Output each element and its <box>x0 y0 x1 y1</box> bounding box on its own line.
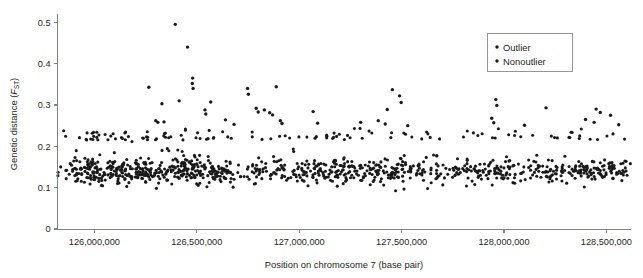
data-point <box>163 176 166 179</box>
data-point <box>535 154 538 157</box>
data-point <box>109 167 112 170</box>
data-point <box>147 85 150 88</box>
data-point <box>199 137 202 140</box>
data-point <box>397 176 400 179</box>
data-point <box>404 133 407 136</box>
data-point <box>191 87 194 90</box>
data-point <box>599 111 602 114</box>
data-point <box>314 137 317 140</box>
data-point <box>623 159 626 162</box>
data-point <box>323 177 326 180</box>
data-point <box>229 181 232 184</box>
data-point <box>253 182 256 185</box>
data-point <box>156 121 159 124</box>
data-point <box>255 164 258 167</box>
data-point <box>599 172 602 175</box>
data-point <box>205 185 208 188</box>
data-point <box>251 163 254 166</box>
data-point <box>620 179 623 182</box>
data-point <box>93 178 96 181</box>
data-point <box>407 170 410 173</box>
data-point <box>158 177 161 180</box>
data-point <box>337 169 340 172</box>
data-point <box>222 176 225 179</box>
data-point <box>64 135 67 138</box>
data-point <box>523 124 526 127</box>
data-point <box>355 170 358 173</box>
x-tick-label: 126,500,000 <box>171 237 222 247</box>
data-point <box>118 174 121 177</box>
data-point <box>471 180 474 183</box>
data-point <box>494 136 497 139</box>
data-point <box>164 136 167 139</box>
data-point <box>505 155 508 158</box>
y-tick-label: 0.5 <box>38 18 51 28</box>
data-point <box>366 169 369 172</box>
data-point <box>353 127 356 130</box>
data-point <box>116 179 119 182</box>
data-point <box>73 174 76 177</box>
data-point <box>626 174 629 177</box>
data-point <box>269 137 272 140</box>
data-point <box>257 156 260 159</box>
data-point <box>89 174 92 177</box>
data-point <box>324 170 327 173</box>
data-point <box>377 163 380 166</box>
chart-figure: 00.10.20.30.40.5 126,000,000126,500,0001… <box>0 0 643 278</box>
data-point <box>370 132 373 135</box>
data-point <box>425 156 428 159</box>
data-point <box>547 158 550 161</box>
data-point <box>386 108 389 111</box>
data-point <box>306 184 309 187</box>
data-point <box>343 162 346 165</box>
data-point <box>386 158 389 161</box>
data-point <box>613 164 616 167</box>
data-point <box>582 172 585 175</box>
data-point <box>603 164 606 167</box>
data-point <box>269 174 272 177</box>
data-point <box>590 177 593 180</box>
data-point <box>617 123 620 126</box>
data-point <box>379 160 382 163</box>
y-tick-label: 0 <box>45 224 50 234</box>
data-point <box>230 177 233 180</box>
data-point <box>122 163 125 166</box>
data-point <box>403 154 406 157</box>
data-point <box>276 167 279 170</box>
data-point <box>417 164 420 167</box>
data-point <box>346 160 349 163</box>
data-point <box>390 131 393 134</box>
data-point <box>78 160 81 163</box>
data-point <box>331 180 334 183</box>
data-point <box>522 165 525 168</box>
data-point <box>444 167 447 170</box>
data-point <box>169 168 172 171</box>
data-point <box>344 173 347 176</box>
data-point <box>311 175 314 178</box>
data-point <box>304 163 307 166</box>
data-point <box>251 170 254 173</box>
data-point <box>174 23 177 26</box>
data-point <box>389 136 392 139</box>
data-point <box>176 171 179 174</box>
data-point <box>123 131 126 134</box>
data-point <box>340 164 343 167</box>
data-point <box>246 87 249 90</box>
data-point <box>359 127 362 130</box>
data-point <box>108 160 111 163</box>
data-point <box>78 136 81 139</box>
data-point <box>555 178 558 181</box>
data-point <box>342 158 345 161</box>
data-point <box>403 171 406 174</box>
data-point <box>531 134 534 137</box>
data-point <box>402 188 405 191</box>
data-point <box>596 138 599 141</box>
data-point <box>481 132 484 135</box>
data-point <box>529 176 532 179</box>
data-point <box>332 160 335 163</box>
data-point <box>350 160 353 163</box>
data-point <box>279 158 282 161</box>
data-point <box>390 166 393 169</box>
data-point <box>519 135 522 138</box>
legend-marker-outlier <box>495 45 498 48</box>
